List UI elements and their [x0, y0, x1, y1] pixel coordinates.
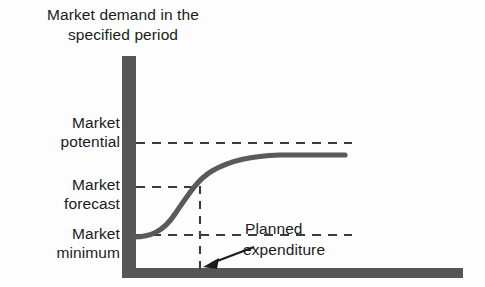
- annotation-planned-expenditure: Planned expenditure: [243, 218, 325, 260]
- annotation-planned-expenditure-line-1: Planned: [243, 218, 325, 239]
- y-axis: [122, 56, 136, 272]
- market-demand-chart: Market demand in the specified period Ma…: [0, 0, 485, 287]
- x-axis: [122, 268, 463, 278]
- annotation-planned-expenditure-line-2: expenditure: [243, 239, 325, 260]
